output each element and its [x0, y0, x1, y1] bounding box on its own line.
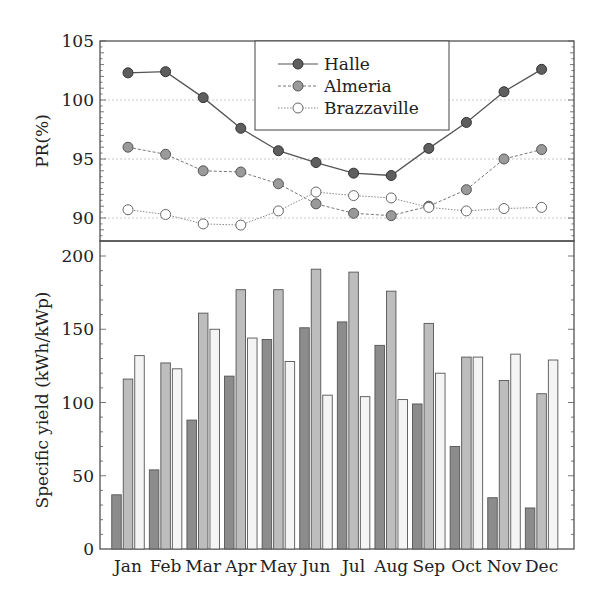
bar — [360, 397, 370, 549]
pr-tick-label: 105 — [62, 31, 94, 51]
data-point — [537, 145, 547, 155]
month-label: Oct — [451, 556, 481, 576]
legend: Halle Almeria Brazzaville — [255, 41, 449, 130]
bar — [386, 291, 396, 549]
brazzaville-marker-icon — [293, 103, 303, 113]
pr-and-yield-chart: 9095100105 PR(%) Halle Almeria — [0, 0, 600, 608]
data-point — [123, 68, 133, 78]
data-point — [311, 199, 321, 209]
bar — [537, 394, 547, 549]
data-point — [461, 185, 471, 195]
data-point — [537, 64, 547, 74]
bar — [511, 354, 521, 549]
bar — [488, 498, 498, 549]
bar — [135, 356, 145, 549]
bar — [123, 379, 133, 549]
month-label: Jun — [300, 556, 331, 576]
bar — [375, 345, 385, 549]
bar — [300, 328, 310, 549]
bar — [413, 404, 423, 549]
bar — [210, 329, 220, 549]
month-label: Jul — [340, 556, 365, 576]
pr-line-panel: 9095100105 PR(%) Halle Almeria — [32, 31, 574, 241]
data-point — [537, 202, 547, 212]
yield-tick-label: 0 — [83, 539, 94, 559]
data-point — [499, 87, 509, 97]
bar — [450, 446, 460, 549]
data-point — [499, 204, 509, 214]
legend-label-almeria: Almeria — [323, 76, 392, 96]
data-point — [386, 211, 396, 221]
legend-label-brazzaville: Brazzaville — [324, 98, 419, 118]
bar — [236, 290, 246, 549]
bar — [499, 381, 509, 549]
data-point — [311, 187, 321, 197]
data-point — [499, 154, 509, 164]
data-point — [198, 166, 208, 176]
bar — [262, 340, 272, 549]
data-point — [273, 206, 283, 216]
bar — [187, 420, 197, 549]
data-point — [386, 193, 396, 203]
data-point — [273, 146, 283, 156]
yield-y-axis-labels: 050100150200 — [62, 246, 94, 559]
month-label: Dec — [525, 556, 558, 576]
yield-bars — [112, 269, 558, 549]
bar — [424, 323, 434, 549]
bar — [525, 508, 535, 549]
data-point — [461, 206, 471, 216]
bar — [323, 395, 333, 549]
bar — [473, 357, 483, 549]
almeria-marker-icon — [293, 81, 303, 91]
bar — [436, 373, 446, 549]
data-point — [198, 93, 208, 103]
pr-series-almeria — [123, 142, 547, 220]
month-label: Jan — [112, 556, 142, 576]
bar — [172, 369, 182, 549]
month-label: Feb — [150, 556, 182, 576]
month-label: Apr — [224, 556, 257, 576]
pr-tick-label: 100 — [62, 90, 94, 110]
bar — [198, 313, 208, 549]
data-point — [349, 168, 359, 178]
pr-y-axis-title: PR(%) — [32, 114, 52, 168]
pr-tick-label: 95 — [72, 149, 94, 169]
bar — [112, 495, 122, 549]
bar — [161, 363, 171, 549]
bar — [337, 322, 347, 549]
data-point — [236, 123, 246, 133]
data-point — [123, 205, 133, 215]
month-label: Sep — [413, 556, 446, 576]
yield-tick-label: 100 — [62, 393, 94, 413]
data-point — [424, 143, 434, 153]
data-point — [198, 219, 208, 229]
bar — [398, 400, 408, 549]
bar — [149, 470, 159, 549]
month-label: Mar — [185, 556, 222, 576]
yield-bar-panel: 050100150200 JanFebMarAprMayJunJulAugSep… — [32, 241, 574, 576]
halle-marker-icon — [293, 59, 303, 69]
data-point — [161, 149, 171, 159]
bar — [311, 269, 321, 549]
data-point — [424, 202, 434, 212]
pr-tick-label: 90 — [72, 208, 94, 228]
yield-y-axis-title: Specific yield (kWh/kWp) — [32, 291, 52, 508]
data-point — [161, 67, 171, 77]
data-point — [461, 117, 471, 127]
bar — [285, 361, 295, 549]
bar — [248, 338, 257, 549]
data-point — [236, 220, 246, 230]
data-point — [236, 167, 246, 177]
bar — [349, 272, 359, 549]
data-point — [161, 209, 171, 219]
pr-y-axis-labels: 9095100105 — [62, 31, 94, 228]
data-point — [311, 158, 321, 168]
pr-series-brazzaville — [123, 187, 547, 230]
data-point — [349, 208, 359, 218]
month-label: May — [260, 556, 298, 576]
month-label: Aug — [373, 556, 408, 576]
bar — [274, 290, 284, 549]
bar — [462, 357, 472, 549]
yield-tick-label: 150 — [62, 319, 94, 339]
x-axis-month-labels: JanFebMarAprMayJunJulAugSepOctNovDec — [112, 556, 558, 576]
